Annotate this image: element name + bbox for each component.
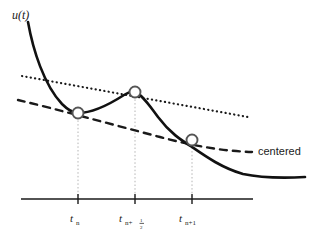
- tick-label-tn-half: t n+ 1 2: [119, 212, 144, 230]
- tick-label-tn: t n: [70, 212, 80, 227]
- figure-container: u(t) t n t n+ 1 2 t n+1 centered: [0, 0, 317, 237]
- tick-label-tn-sub: n: [76, 219, 80, 227]
- guide-lines-group: [78, 92, 192, 199]
- tick-label-tn-plus-1: t n+1: [179, 212, 196, 227]
- tick-label-tn-plus-1-base: t: [179, 212, 183, 224]
- y-axis-label: u(t): [12, 8, 29, 22]
- tick-label-tn-half-sub: n+: [125, 219, 133, 227]
- tick-label-tn-half-numerator: 1: [140, 218, 143, 223]
- marker-tn-plus-1: [187, 135, 198, 146]
- tick-label-tn-base: t: [70, 212, 74, 224]
- marker-tn: [73, 108, 84, 119]
- centered-annotation-label: centered: [258, 145, 301, 157]
- marker-tn-half: [130, 87, 141, 98]
- plot-canvas: u(t) t n t n+ 1 2 t n+1 centered: [0, 0, 317, 237]
- tick-label-tn-half-base: t: [119, 212, 123, 224]
- tick-label-tn-plus-1-sub: n+1: [185, 219, 196, 227]
- tick-label-tn-half-denominator: 2: [140, 225, 143, 230]
